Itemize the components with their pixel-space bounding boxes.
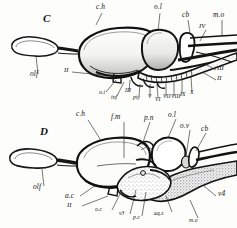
figd-label-ac: a.c — [65, 192, 74, 199]
figd-label-ol: o.l — [168, 111, 176, 118]
figd-label-fm: f.m — [111, 113, 121, 120]
figd-commissure-dot — [141, 171, 146, 176]
figc-label-ii-left: II — [64, 67, 69, 74]
figd-label-ii: II — [67, 202, 72, 209]
figc-label-viii: VIII — [171, 94, 180, 100]
figc-label-iii-right: III — [217, 65, 224, 72]
figd-label-oc: o.c — [95, 207, 102, 213]
figd-label-pn: p.n — [144, 114, 154, 121]
figc-label-x: X — [190, 90, 194, 96]
figc-label-cb: cb — [182, 11, 189, 18]
figc-label-mo: m.o — [213, 11, 224, 18]
figc-label-ol: o.l — [154, 3, 162, 10]
figc-label-ot: o.t — [99, 90, 105, 96]
figc-label-v: V — [148, 94, 152, 100]
figc-label-iii-low: III — [125, 88, 131, 94]
figd-olfactory-bulb — [10, 149, 77, 168]
figc-label-iv: IV — [199, 23, 205, 30]
figd-label-ov: o.v — [180, 122, 189, 129]
figc-optic-lobe — [142, 30, 178, 70]
figc-label-ch: c.h — [96, 3, 105, 10]
figd-label-olf: olf — [33, 183, 41, 190]
figd-label-ch: c.h — [76, 110, 85, 117]
figd-cerebellum — [189, 147, 199, 167]
figc-label-vii: VII — [163, 94, 170, 100]
figd-label-v4: v4 — [218, 190, 225, 197]
figd-label-aqs: aq.s — [154, 211, 164, 217]
figd-label-mo: m.o — [189, 218, 198, 224]
figd-label-v3: v3 — [119, 211, 124, 217]
figc-label-vi: VI — [155, 97, 160, 103]
figure-c-letter: C — [43, 13, 51, 24]
figc-label-pty: pty — [133, 95, 140, 101]
figure-d-letter: D — [40, 126, 48, 137]
illustration-plate: C c.h o.l cb m.o IV olf II o.t inf III p… — [0, 0, 237, 228]
figc-label-inf: inf — [111, 95, 117, 101]
figc-olfactory-bulb — [12, 37, 79, 56]
figd-label-pc: p.c — [133, 215, 140, 221]
figc-label-olf: olf — [30, 70, 38, 77]
figc-label-ii-right: II — [217, 75, 222, 82]
figc-label-ix: IX — [180, 92, 185, 98]
figd-label-cb: cb — [201, 125, 208, 132]
figd-optic-lobe — [152, 138, 186, 171]
